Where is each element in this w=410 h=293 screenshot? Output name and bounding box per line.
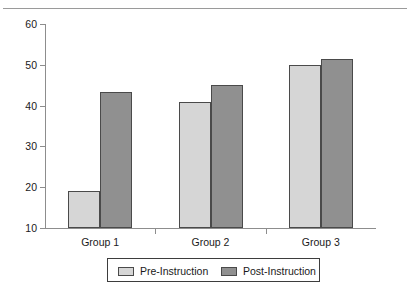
x-axis-label-group-1: Group 1 [50,237,150,248]
y-tick-60 [40,24,45,25]
bar-group-3-pre-instruction [289,65,321,228]
y-tick-50 [40,65,45,66]
bar-group-2-pre-instruction [179,102,211,228]
top-divider-rule [3,8,407,9]
y-tick-10 [40,228,45,229]
bar-group-2-post-instruction [211,85,243,228]
legend-swatch-post-instruction [221,267,237,276]
y-tick-label-40: 40 [12,101,37,112]
bar-group-1-pre-instruction [68,191,100,228]
bar-group-3-post-instruction [321,59,353,228]
x-tick-1 [155,229,156,234]
x-axis-label-group-2: Group 2 [161,237,261,248]
bar-group-1-post-instruction [100,92,132,228]
legend-swatch-pre-instruction [118,267,134,276]
y-tick-40 [40,106,45,107]
y-tick-label-10: 10 [12,223,37,234]
x-axis-line [45,228,376,229]
legend-label-post-instruction: Post-Instruction [243,266,316,277]
y-tick-label-60: 60 [12,19,37,30]
bar-chart-figure: 102030405060 Group 1Group 2Group 3 Pre-I… [0,0,410,293]
y-tick-label-50: 50 [12,60,37,71]
y-tick-20 [40,187,45,188]
y-tick-label-20: 20 [12,182,37,193]
y-tick-30 [40,146,45,147]
chart-legend: Pre-Instruction Post-Instruction [107,258,320,282]
x-tick-2 [266,229,267,234]
legend-entry-pre-instruction: Pre-Instruction [118,264,208,278]
y-axis-line [45,24,46,229]
legend-label-pre-instruction: Pre-Instruction [140,266,208,277]
legend-entry-post-instruction: Post-Instruction [221,264,316,278]
y-tick-label-30: 30 [12,141,37,152]
x-axis-label-group-3: Group 3 [271,237,371,248]
